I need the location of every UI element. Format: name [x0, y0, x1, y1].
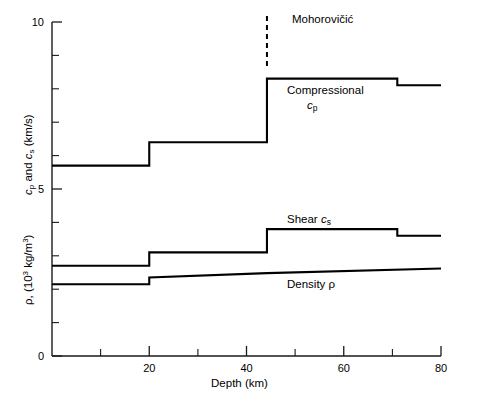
compressional-label-text: Compressional	[287, 84, 364, 96]
density-label-text: Density	[287, 278, 325, 290]
moho-label: Mohorovičić	[292, 12, 353, 26]
y-tick-label-10: 10	[32, 16, 44, 28]
shear-symbol-sub: s	[327, 217, 331, 227]
plot-canvas: 10 5 0 20 40 60 80	[0, 0, 479, 402]
x-tick-label-80: 80	[435, 362, 447, 374]
y-axis-title-velocity: cp and cs (km/s)	[22, 114, 34, 195]
compressional-symbol-sub: p	[313, 103, 318, 113]
density-symbol: ρ	[329, 278, 336, 290]
x-tick-label-60: 60	[338, 362, 350, 374]
x-tick-label-20: 20	[143, 362, 155, 374]
curve-shear-cs	[52, 229, 441, 266]
compressional-label: Compressional cp	[287, 83, 364, 113]
seismic-velocity-figure: 10 5 0 20 40 60 80 Mohorovičić Compressi…	[0, 0, 479, 402]
x-axis-title: Depth (km)	[0, 377, 479, 389]
y-tick-label-5: 5	[38, 183, 44, 195]
y-axis-title-density: ρ, (103 kg/m3)	[22, 235, 34, 305]
shear-symbol: cs	[321, 213, 331, 225]
compressional-symbol: cp	[287, 98, 364, 112]
shear-label-text: Shear	[287, 213, 318, 225]
density-label: Density ρ	[287, 277, 335, 291]
curve-compressional-cp	[52, 79, 441, 166]
shear-label: Shear cs	[287, 212, 331, 226]
compressional-symbol-base: c	[307, 99, 313, 111]
x-tick-label-40: 40	[240, 362, 252, 374]
y-axis-major-ticks	[52, 22, 62, 356]
y-tick-label-0: 0	[38, 350, 44, 362]
shear-symbol-base: c	[321, 213, 327, 225]
curve-density-rho	[52, 269, 441, 285]
